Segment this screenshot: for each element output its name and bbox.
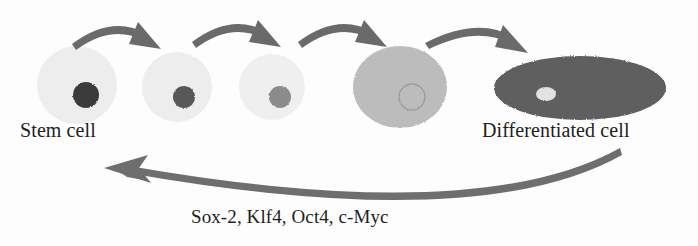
reprogramming-factors-label: Sox-2, Klf4, Oct4, c-Myc xyxy=(191,206,389,228)
arrow-stage-2-to-3 xyxy=(192,20,281,48)
cell-nucleus xyxy=(173,86,195,108)
stem-cell xyxy=(37,46,117,124)
arrow-stage-1-to-2 xyxy=(72,22,161,50)
transition-cell-2 xyxy=(142,52,212,122)
cell-body xyxy=(142,52,212,122)
reprogramming-arrow xyxy=(104,148,622,200)
differentiated-cell xyxy=(494,56,666,120)
cell-nucleus xyxy=(269,86,291,108)
cell-nucleus xyxy=(73,82,99,108)
cell-nucleus xyxy=(536,87,556,101)
cell-body xyxy=(353,46,447,128)
cell-series xyxy=(37,46,666,128)
arrow-stage-3-to-4 xyxy=(298,20,387,48)
cell-body xyxy=(494,56,666,120)
transition-cell-3 xyxy=(239,54,305,120)
cell-reprogramming-diagram: Stem cell Differentiated cell Sox-2, Klf… xyxy=(0,0,698,246)
transition-cell-4 xyxy=(353,46,447,128)
differentiation-arrows xyxy=(72,20,528,53)
arrow-stage-4-to-5 xyxy=(425,25,528,53)
cell-body xyxy=(239,54,305,120)
differentiated-cell-label: Differentiated cell xyxy=(482,119,630,142)
cell-body xyxy=(37,46,117,124)
stem-cell-label: Stem cell xyxy=(20,119,96,142)
